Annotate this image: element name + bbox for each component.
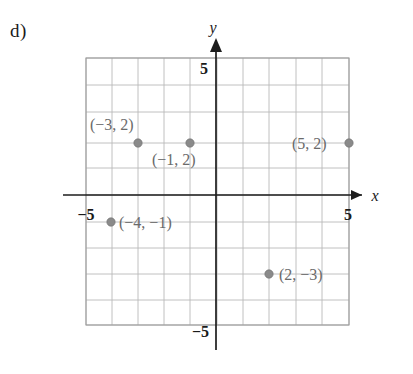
x-axis-label: x: [370, 187, 378, 204]
y-tick-label-positive-5: 5: [200, 60, 208, 77]
grid-border: [86, 58, 349, 325]
data-point: [134, 139, 142, 147]
data-point: [345, 139, 353, 147]
y-axis-label: y: [207, 19, 217, 37]
y-tick-label-negative-5: −5: [192, 323, 209, 340]
data-point: [265, 270, 273, 278]
point-label: (5, 2): [292, 135, 327, 153]
grid-lines: [86, 58, 349, 325]
point-label: (2, −3): [279, 266, 323, 284]
x-tick-label-positive-5: 5: [344, 206, 352, 223]
data-point: [186, 139, 194, 147]
x-axis: [63, 190, 362, 200]
x-axis-arrow-icon: [351, 190, 362, 200]
point-label: (−1, 2): [152, 151, 196, 169]
figure-root: d): [0, 0, 413, 374]
point-labels: (−3, 2) (−1, 2) (5, 2) (−4, −1) (2, −3): [90, 116, 327, 284]
coordinate-plane: x y 5 −5 −5 5 (−3, 2) (−1, 2) (5, 2) (−4…: [0, 0, 413, 374]
point-label: (−3, 2): [90, 116, 134, 134]
x-tick-label-negative-5: −5: [77, 206, 94, 223]
point-label: (−4, −1): [119, 214, 172, 232]
y-axis-arrow-icon: [210, 38, 222, 52]
data-point: [107, 218, 115, 226]
data-points: [107, 139, 353, 278]
